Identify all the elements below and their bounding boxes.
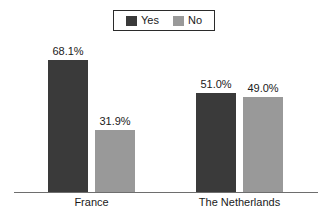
bar-netherlands-yes[interactable] xyxy=(196,93,236,192)
bar-france-no[interactable] xyxy=(95,130,135,192)
bar-value-label-france-no: 31.9% xyxy=(87,115,143,127)
plot-area: 68.1% 31.9% 51.0% 49.0% France The Nethe… xyxy=(0,0,330,220)
category-label-france: France xyxy=(32,196,152,209)
bar-chart: Yes No 68.1% 31.9% 51.0% 49.0% France Th… xyxy=(0,0,330,220)
bar-netherlands-no[interactable] xyxy=(243,97,283,192)
bar-france-yes[interactable] xyxy=(48,60,88,192)
bar-value-label-netherlands-no: 49.0% xyxy=(235,82,291,94)
bar-value-label-france-yes: 68.1% xyxy=(40,45,96,57)
category-label-the-netherlands: The Netherlands xyxy=(180,196,300,209)
x-axis-line xyxy=(14,192,318,193)
